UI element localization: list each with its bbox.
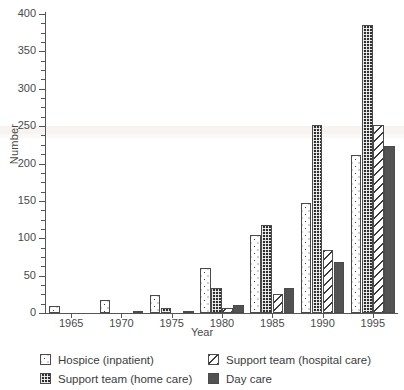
x-axis-tick-label: 1980	[200, 317, 244, 329]
y-axis-tick-label: 300	[2, 82, 36, 94]
legend-item-label: Support team (home care)	[58, 373, 192, 385]
x-axis-tick-label: 1975	[150, 317, 194, 329]
bar	[362, 25, 373, 313]
bar	[373, 125, 384, 313]
y-axis-tick	[39, 313, 46, 314]
legend-item-label: Support team (hospital care)	[226, 354, 371, 366]
y-axis-tick-label: 100	[2, 231, 36, 243]
legend-item-label: Hospice (inpatient)	[58, 354, 154, 366]
bar	[273, 294, 284, 313]
x-axis-tick-label: 1970	[99, 317, 143, 329]
bar	[284, 288, 295, 313]
bar-chart-figure: Number Year 050100150200250300350400 196…	[0, 0, 404, 390]
x-axis-tick-label: 1985	[250, 317, 294, 329]
solid-grey-icon	[208, 373, 219, 384]
legend-item[interactable]: Support team (home care)	[40, 373, 208, 385]
y-axis-tick-label: 350	[2, 44, 36, 56]
dense-checkerboard-icon	[40, 373, 51, 384]
bar	[261, 225, 272, 313]
y-axis-tick-label: 400	[2, 7, 36, 19]
bar	[49, 306, 60, 313]
bar	[150, 295, 161, 313]
bar	[301, 203, 312, 313]
x-axis-tick-label: 1965	[49, 317, 93, 329]
y-axis-tick	[39, 14, 46, 15]
chart-legend: Hospice (inpatient)Support team (hospita…	[40, 350, 400, 388]
y-axis-tick	[39, 238, 46, 239]
bar	[100, 300, 111, 313]
diagonal-hatch-icon	[208, 354, 219, 365]
y-axis-tick-label: 250	[2, 119, 36, 131]
x-axis-tick-label: 1990	[301, 317, 345, 329]
y-axis-tick	[39, 276, 46, 277]
legend-item-label: Day care	[226, 373, 272, 385]
y-axis-tick-label: 200	[2, 157, 36, 169]
y-axis-tick-label: 150	[2, 194, 36, 206]
y-axis-tick	[39, 164, 46, 165]
legend-item[interactable]: Hospice (inpatient)	[40, 354, 208, 366]
bar	[233, 305, 244, 313]
bar	[200, 268, 211, 313]
bar	[323, 250, 334, 313]
y-axis-tick	[39, 126, 46, 127]
sparse-dots-icon	[40, 354, 51, 365]
bar	[250, 235, 261, 313]
bar	[183, 311, 194, 313]
bar	[222, 308, 233, 313]
y-axis-tick-label: 50	[2, 269, 36, 281]
plot-area	[46, 14, 398, 313]
y-axis-tick	[39, 51, 46, 52]
y-axis-tick	[39, 201, 46, 202]
bar	[161, 308, 172, 313]
bar	[312, 125, 323, 313]
bar	[351, 155, 362, 313]
x-axis-tick-label: 1995	[351, 317, 395, 329]
bar	[133, 311, 144, 313]
legend-item[interactable]: Support team (hospital care)	[208, 354, 400, 366]
bar	[384, 146, 395, 313]
bar	[211, 288, 222, 313]
y-axis-tick	[39, 89, 46, 90]
legend-item[interactable]: Day care	[208, 373, 400, 385]
bar	[334, 262, 345, 313]
y-axis-tick-label: 0	[2, 306, 36, 318]
